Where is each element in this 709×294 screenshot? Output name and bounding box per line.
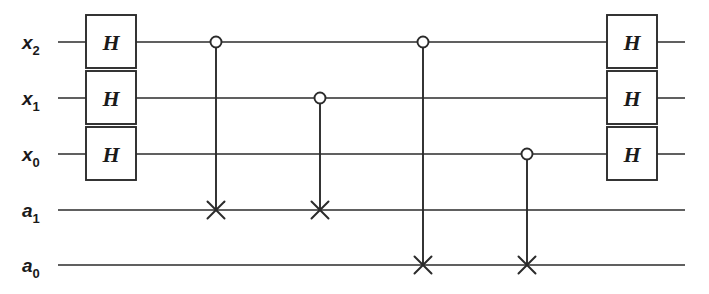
hadamard-x1-right[interactable]: H bbox=[607, 71, 657, 124]
hadamard-x0-right[interactable]: H bbox=[607, 127, 657, 180]
hadamard-x0-left-label: H bbox=[101, 142, 120, 167]
wire-label-x0: x0 bbox=[21, 144, 40, 170]
hadamard-x2-left[interactable]: H bbox=[86, 15, 136, 68]
hadamard-x0-left[interactable]: H bbox=[86, 127, 136, 180]
hadamard-x2-left-label: H bbox=[101, 30, 120, 55]
cnot-x0-a0[interactable] bbox=[519, 149, 536, 274]
wire-label-x1: x1 bbox=[21, 88, 40, 114]
hadamard-x1-right-label: H bbox=[622, 86, 641, 111]
cnot-x1-a1[interactable] bbox=[312, 93, 329, 219]
circuit-canvas: x2x1x0a1a0 HHHHHH bbox=[0, 0, 709, 294]
hadamard-x1-left[interactable]: H bbox=[86, 71, 136, 124]
hadamard-x2-right-label: H bbox=[622, 30, 641, 55]
cnot-x2-a0-control-dot-icon[interactable] bbox=[418, 37, 429, 48]
cnot-x2-a0[interactable] bbox=[415, 37, 432, 274]
wire-label-a0: a0 bbox=[22, 255, 40, 281]
wires-layer bbox=[58, 42, 685, 265]
wire-labels-layer: x2x1x0a1a0 bbox=[21, 32, 40, 281]
cnot-x2-a1-control-dot-icon[interactable] bbox=[211, 37, 222, 48]
hadamard-x0-right-label: H bbox=[622, 142, 641, 167]
hadamard-x1-left-label: H bbox=[101, 86, 120, 111]
quantum-circuit-figure: x2x1x0a1a0 HHHHHH bbox=[0, 0, 709, 294]
wire-label-a1: a1 bbox=[22, 200, 40, 226]
cnot-x0-a0-control-dot-icon[interactable] bbox=[522, 149, 533, 160]
cnot-x1-a1-control-dot-icon[interactable] bbox=[315, 93, 326, 104]
wire-label-x2: x2 bbox=[21, 32, 40, 58]
hadamard-x2-right[interactable]: H bbox=[607, 15, 657, 68]
cnot-gates-layer bbox=[208, 37, 536, 274]
cnot-x2-a1[interactable] bbox=[208, 37, 225, 219]
